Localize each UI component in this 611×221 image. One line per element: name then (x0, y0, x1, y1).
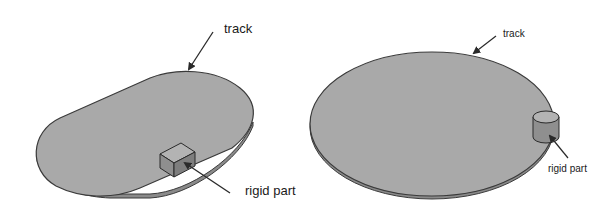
right-rigid-part-cylinder (533, 111, 559, 143)
track-diagram-figure: track rigid part track rigid part (0, 0, 611, 221)
left-track-label: track (224, 22, 252, 35)
left-track-surface (36, 71, 253, 196)
left-part-arrow (185, 163, 230, 193)
left-rigid-part-label: rigid part (245, 184, 296, 197)
right-track (310, 52, 554, 199)
right-part-arrow (550, 136, 568, 158)
right-track-surface (310, 52, 554, 196)
right-track-label: track (503, 29, 525, 39)
left-track-arrow (189, 32, 213, 69)
right-track-arrow (474, 36, 496, 53)
left-track (36, 71, 253, 198)
right-rigid-part-label: rigid part (548, 164, 587, 174)
